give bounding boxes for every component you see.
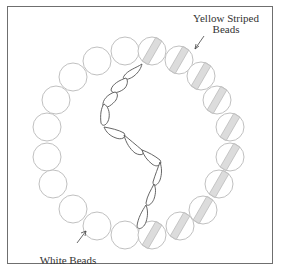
white-bead [59, 195, 87, 223]
white-beads-group [33, 37, 139, 249]
yellow-striped-bead [216, 113, 244, 141]
yellow-striped-bead [205, 170, 233, 198]
white-bead [33, 113, 61, 141]
yellow-striped-bead [166, 212, 194, 240]
chain-links [101, 64, 162, 229]
yellow-striped-bead [138, 37, 166, 65]
white-bead [33, 143, 61, 171]
white-bead [111, 221, 139, 249]
yellow-striped-bead [203, 86, 231, 114]
white-bead [59, 63, 87, 91]
yellow-label-line2: Beads [186, 24, 266, 35]
white-bead [83, 212, 111, 240]
yellow-striped-beads-label: Yellow Striped Beads [186, 13, 266, 35]
white-bead [83, 47, 111, 75]
bead-diagram [0, 0, 281, 279]
white-bead [111, 37, 139, 65]
yellow-striped-bead [187, 62, 215, 90]
yellow-striped-bead [216, 143, 244, 171]
white-beads-label: White Beads [36, 255, 100, 266]
yellow-striped-beads-group [138, 37, 244, 249]
yellow-striped-bead [189, 196, 217, 224]
white-bead [42, 86, 70, 114]
white-bead [39, 170, 67, 198]
